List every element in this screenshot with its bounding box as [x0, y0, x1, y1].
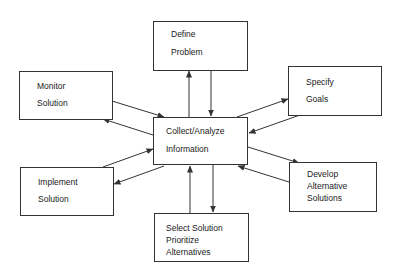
diagram-canvas: Define Problem Monitor Solution Specify … — [0, 0, 398, 275]
node-label-line: Develop — [307, 169, 338, 179]
node-label-line: Prioritize — [166, 235, 199, 245]
node-label-line: Solution — [37, 98, 68, 108]
arrow-collect-to-monitor — [103, 119, 153, 135]
node-label-line: Define — [171, 29, 196, 39]
node-label-line: Alternatives — [166, 247, 210, 257]
node-label-line: Alternative — [307, 181, 347, 191]
node-label-line: Solutions — [307, 193, 342, 203]
arrow-develop-to-collect — [238, 166, 289, 182]
node-specify-goals: Specify Goals — [288, 66, 382, 116]
node-label-line: Goals — [306, 94, 328, 104]
arrow-collect-to-develop — [248, 147, 299, 163]
node-develop-alternative-solutions: Develop Alternative Solutions — [289, 162, 377, 212]
arrow-collect-to-implement — [114, 166, 164, 184]
node-label-line: Select Solution — [166, 223, 223, 233]
node-label-line: Solution — [38, 194, 69, 204]
node-label-line: Monitor — [37, 81, 65, 91]
arrow-collect-to-specify — [237, 99, 288, 117]
node-collect-analyze-information: Collect/Analyze Information — [153, 117, 248, 165]
arrow-specify-to-collect — [249, 115, 300, 133]
node-label-line: Problem — [171, 47, 203, 57]
node-select-solution: Select Solution Prioritize Alternatives — [154, 213, 249, 262]
node-monitor-solution: Monitor Solution — [19, 71, 113, 120]
node-label-line: Collect/Analyze — [166, 126, 225, 136]
node-label-line: Implement — [38, 177, 78, 187]
node-label-line: Information — [166, 144, 209, 154]
arrow-implement-to-collect — [103, 149, 153, 167]
node-define-problem: Define Problem — [153, 21, 248, 71]
node-implement-solution: Implement Solution — [20, 167, 114, 216]
node-label-line: Specify — [306, 77, 334, 87]
arrow-monitor-to-collect — [112, 101, 164, 117]
